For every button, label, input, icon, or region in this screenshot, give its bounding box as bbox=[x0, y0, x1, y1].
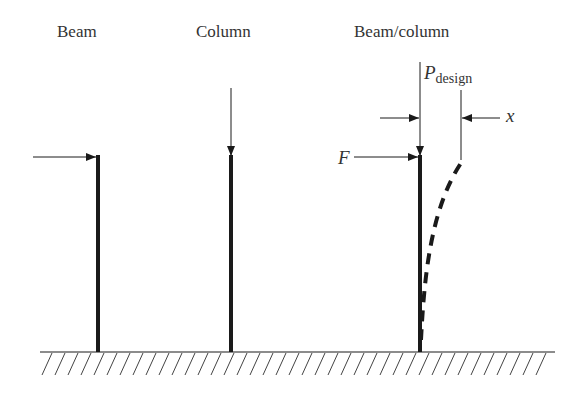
deflected-shape bbox=[421, 163, 461, 340]
beam-member bbox=[33, 155, 98, 352]
diagram-canvas bbox=[0, 0, 582, 403]
ground bbox=[40, 352, 555, 375]
beam-column-member bbox=[354, 62, 500, 352]
